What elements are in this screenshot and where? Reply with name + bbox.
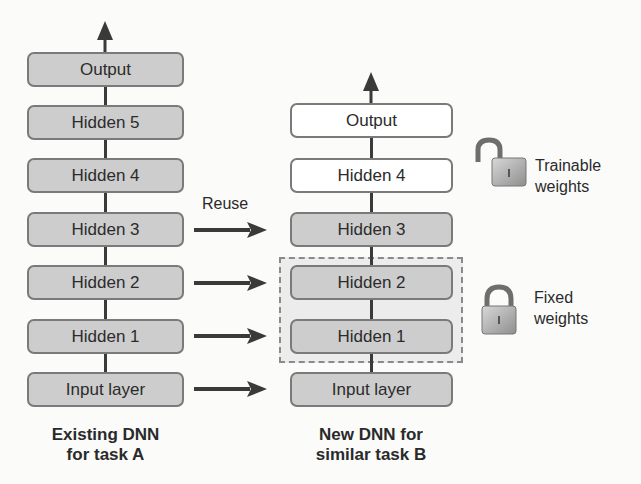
locked-padlock-icon <box>0 0 641 484</box>
fixed-weights-label: Fixed weights <box>534 287 588 329</box>
label-line: weights <box>534 308 588 329</box>
label-line: Fixed <box>534 287 588 308</box>
